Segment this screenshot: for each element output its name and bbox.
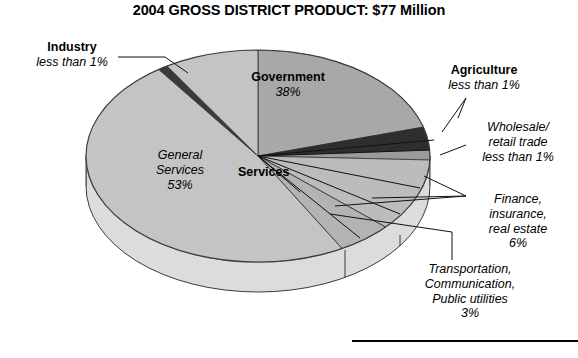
label-industry: Industry less than 1%: [18, 40, 126, 70]
label-wholesale-line3: less than 1%: [462, 150, 574, 165]
chart-canvas: 2004 GROSS DISTRICT PRODUCT: $77 Million: [0, 0, 578, 358]
label-transport-line2: Communication,: [396, 277, 544, 292]
label-services-name: Services: [238, 165, 328, 180]
label-agriculture: Agriculture less than 1%: [424, 63, 544, 93]
label-general-services: General Services 53%: [128, 148, 232, 192]
label-finance-line1: Finance,: [462, 192, 574, 207]
label-transportation-communication-utilities: Transportation, Communication, Public ut…: [396, 262, 544, 321]
label-wholesale-line1: Wholesale/: [462, 120, 574, 135]
label-wholesale-retail-trade: Wholesale/ retail trade less than 1%: [462, 120, 574, 164]
label-agriculture-name: Agriculture: [424, 63, 544, 78]
label-government: Government 38%: [228, 70, 348, 100]
bottom-rule: [352, 340, 578, 342]
label-transport-value: 3%: [396, 306, 544, 321]
label-transport-line3: Public utilities: [396, 292, 544, 307]
label-government-name: Government: [228, 70, 348, 85]
label-transport-line1: Transportation,: [396, 262, 544, 277]
label-general-services-value: 53%: [128, 178, 232, 193]
label-general-services-line1: General: [128, 148, 232, 163]
label-finance-insurance-real-estate: Finance, insurance, real estate 6%: [462, 192, 574, 251]
label-finance-line3: real estate: [462, 222, 574, 237]
label-general-services-line2: Services: [128, 163, 232, 178]
label-wholesale-line2: retail trade: [462, 135, 574, 150]
label-agriculture-value: less than 1%: [424, 78, 544, 93]
label-industry-value: less than 1%: [18, 55, 126, 70]
label-industry-name: Industry: [18, 40, 126, 55]
label-government-value: 38%: [228, 85, 348, 100]
label-services: Services: [238, 165, 328, 180]
label-finance-value: 6%: [462, 236, 574, 251]
label-finance-line2: insurance,: [462, 207, 574, 222]
